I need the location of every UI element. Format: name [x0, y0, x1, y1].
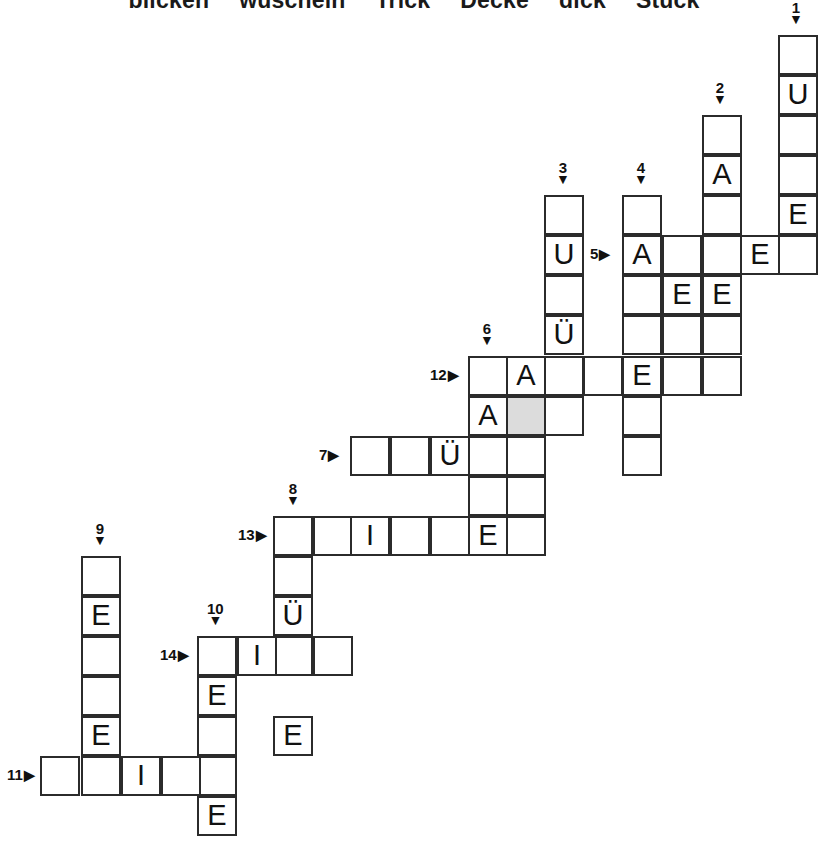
clue-number: 7 — [319, 447, 327, 462]
word-bank-word: Trick — [376, 0, 431, 14]
grid-cell[interactable] — [662, 235, 702, 275]
grid-cell[interactable] — [622, 396, 662, 436]
grid-cell[interactable] — [468, 356, 508, 396]
grid-cell[interactable] — [506, 476, 546, 516]
grid-cell[interactable]: E — [778, 195, 818, 235]
grid-cell[interactable]: E — [197, 796, 237, 836]
cell-letter: A — [632, 240, 651, 269]
clue-marker-8[interactable]: 8▼ — [286, 481, 300, 505]
grid-cell[interactable]: E — [662, 275, 702, 315]
grid-cell[interactable] — [778, 235, 818, 275]
grid-cell[interactable] — [778, 155, 818, 195]
grid-cell[interactable] — [430, 516, 470, 556]
grid-cell[interactable]: I — [121, 756, 161, 796]
clue-marker-3[interactable]: 3▼ — [556, 160, 570, 184]
cell-letter: E — [91, 721, 110, 750]
grid-cell[interactable]: A — [622, 235, 662, 275]
grid-cell[interactable]: A — [468, 396, 508, 436]
grid-cell[interactable] — [702, 315, 742, 355]
cell-letter: Ü — [440, 441, 461, 470]
clue-marker-4[interactable]: 4▼ — [634, 160, 648, 184]
grid-cell[interactable] — [468, 436, 508, 476]
grid-cell[interactable] — [622, 315, 662, 355]
grid-cell[interactable] — [273, 636, 313, 676]
grid-cell[interactable]: E — [740, 235, 780, 275]
grid-cell[interactable] — [81, 756, 121, 796]
grid-cell[interactable]: E — [622, 356, 662, 396]
grid-cell[interactable] — [702, 235, 742, 275]
grid-cell[interactable] — [81, 636, 121, 676]
grid-cell[interactable] — [40, 756, 80, 796]
grid-cell[interactable] — [197, 756, 237, 796]
grid-cell[interactable] — [313, 636, 353, 676]
grid-cell[interactable] — [662, 315, 702, 355]
clue-marker-9[interactable]: 9▼ — [93, 521, 107, 545]
grid-cell[interactable] — [81, 676, 121, 716]
crossword-canvas: blickenwuschelnTrickDeckedickStück UEAEU… — [0, 0, 828, 853]
cell-letter: U — [554, 240, 575, 269]
word-bank-word: Decke — [460, 0, 529, 14]
grid-cell[interactable] — [662, 356, 702, 396]
grid-cell[interactable] — [197, 636, 237, 676]
grid-cell[interactable] — [81, 556, 121, 596]
grid-cell[interactable] — [506, 436, 546, 476]
grid-cell[interactable] — [583, 356, 623, 396]
grid-cell[interactable] — [702, 115, 742, 155]
grid-cell[interactable] — [622, 275, 662, 315]
arrow-down-icon: ▼ — [789, 15, 803, 24]
grid-cell[interactable] — [702, 356, 742, 396]
grid-cell[interactable] — [544, 396, 584, 436]
arrow-right-icon: ▶ — [24, 770, 35, 780]
grid-cell[interactable] — [544, 195, 584, 235]
grid-cell[interactable] — [273, 516, 313, 556]
grid-cell[interactable]: A — [506, 356, 546, 396]
grid-cell[interactable] — [506, 516, 546, 556]
grid-cell[interactable] — [161, 756, 201, 796]
clue-marker-1[interactable]: 1▼ — [789, 0, 803, 24]
clue-number: 12 — [430, 367, 447, 382]
grid-cell[interactable]: I — [350, 516, 390, 556]
clue-marker-13[interactable]: 13▶ — [238, 527, 267, 542]
grid-cell[interactable] — [468, 476, 508, 516]
clue-marker-6[interactable]: 6▼ — [480, 321, 494, 345]
grid-cell[interactable]: Ü — [544, 315, 584, 355]
grid-cell[interactable] — [778, 115, 818, 155]
grid-cell[interactable]: U — [778, 75, 818, 115]
clue-marker-12[interactable]: 12▶ — [430, 367, 459, 382]
arrow-down-icon: ▼ — [556, 175, 570, 184]
grid-cell[interactable] — [544, 275, 584, 315]
grid-cell[interactable] — [622, 195, 662, 235]
grid-cell[interactable]: E — [468, 516, 508, 556]
clue-marker-2[interactable]: 2▼ — [713, 80, 727, 104]
grid-cell[interactable]: E — [81, 596, 121, 636]
grid-cell[interactable] — [350, 436, 390, 476]
grid-cell[interactable] — [313, 516, 353, 556]
arrow-down-icon: ▼ — [634, 175, 648, 184]
grid-cell[interactable]: U — [544, 235, 584, 275]
grid-cell[interactable] — [702, 195, 742, 235]
grid-cell[interactable] — [390, 436, 430, 476]
grid-cell[interactable] — [622, 436, 662, 476]
grid-cell[interactable]: E — [197, 676, 237, 716]
grid-cell-shaded[interactable] — [506, 396, 546, 436]
grid-cell[interactable]: I — [237, 636, 277, 676]
grid-cell[interactable]: E — [273, 716, 313, 756]
grid-cell[interactable]: Ü — [430, 436, 470, 476]
grid-cell[interactable] — [273, 556, 313, 596]
clue-marker-11[interactable]: 11▶ — [7, 767, 35, 782]
grid-cell[interactable] — [197, 716, 237, 756]
clue-marker-5[interactable]: 5▶ — [590, 246, 610, 261]
cell-letter: E — [478, 521, 497, 550]
grid-cell[interactable]: A — [702, 155, 742, 195]
grid-cell[interactable]: E — [81, 716, 121, 756]
arrow-down-icon: ▼ — [480, 336, 494, 345]
grid-cell[interactable] — [778, 35, 818, 75]
grid-cell[interactable] — [390, 516, 430, 556]
grid-cell[interactable] — [544, 356, 584, 396]
clue-marker-7[interactable]: 7▶ — [319, 447, 339, 462]
cell-letter: E — [283, 721, 302, 750]
clue-marker-10[interactable]: 10▼ — [207, 601, 224, 625]
clue-marker-14[interactable]: 14▶ — [160, 647, 189, 662]
grid-cell[interactable]: E — [702, 275, 742, 315]
grid-cell[interactable]: Ü — [273, 596, 313, 636]
